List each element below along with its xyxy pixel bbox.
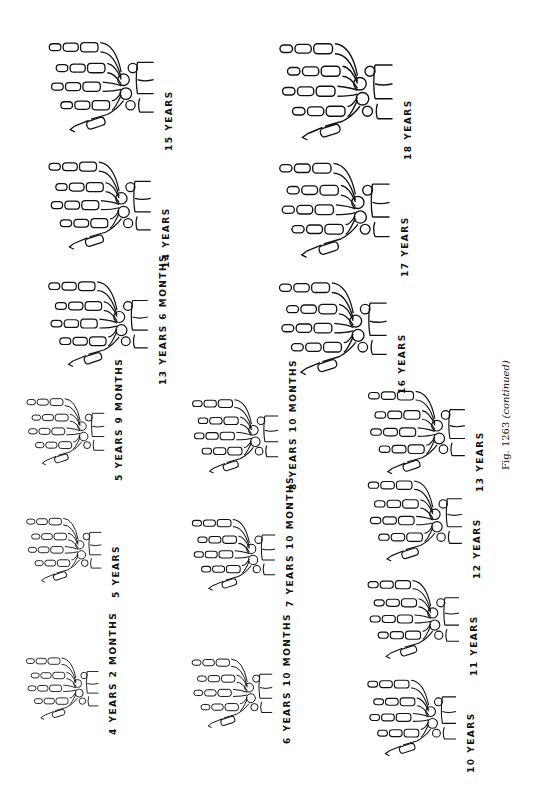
age-label: 11 YEARS [469,615,479,676]
age-label: 16 YEARS [397,333,407,394]
hand-skeleton-drawing [40,260,150,385]
hand-skeleton-drawing [270,260,389,394]
caption-figure-number: Fig. 1263 [500,422,511,470]
caption-continued: (continued) [500,360,511,418]
hand-skeleton-drawing [185,640,274,744]
age-label: 10 YEARS [466,712,476,773]
age-label: 15 YEARS [164,90,174,151]
age-label: 17 YEARS [400,216,410,277]
hand-skeleton-drawing [40,140,153,268]
figure-caption: Fig. 1263 (continued) [500,360,511,470]
age-label: 18 YEARS [403,99,413,160]
age-label: 4 YEARS 2 MONTHS [108,612,118,735]
age-label: 13 YEARS [475,431,485,492]
age-label: 6 YEARS 10 MONTHS [282,613,292,744]
hand-skeleton-drawing [20,500,103,598]
hand-skeleton-drawing [185,380,280,490]
age-label: 13 YEARS 6 MONTHS [158,254,168,385]
hand-skeleton-drawing [40,20,156,151]
age-label: 7 YEARS 10 MONTHS [285,476,295,607]
hand-skeleton-drawing [185,500,277,607]
hand-skeleton-drawing [20,640,100,735]
hand-skeleton-drawing [270,140,392,277]
age-label: 14 YEARS [161,207,171,268]
hand-skeleton-drawing [360,660,458,773]
age-label: 5 YEARS [111,545,121,598]
hand-skeleton-drawing [270,20,395,160]
age-label: 12 YEARS [472,518,482,579]
hand-skeleton-drawing [20,380,106,481]
